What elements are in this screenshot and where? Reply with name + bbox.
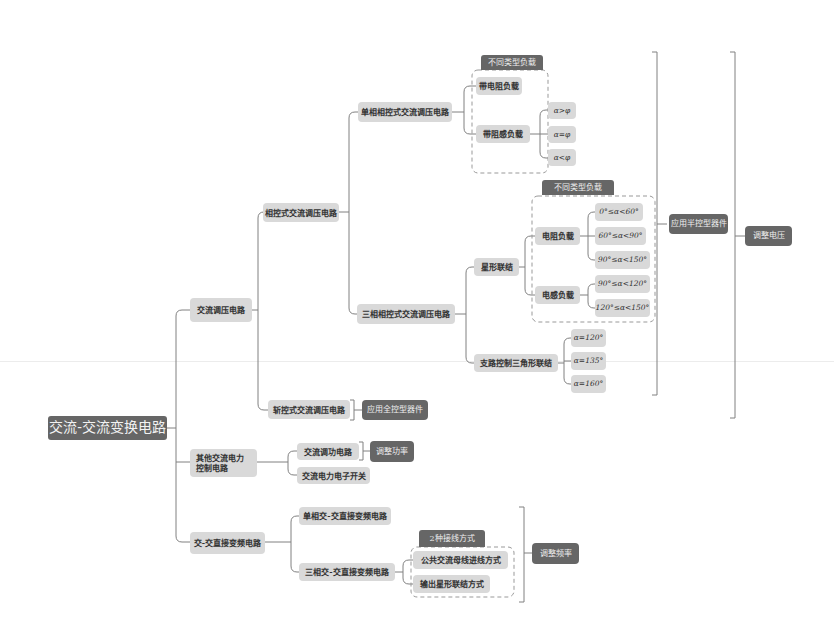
tag-adjust-power: 调整功率 [370, 441, 414, 462]
tag-load-types-three: 不同类型负载 [542, 180, 614, 195]
node-three-phase-phase-controlled[interactable]: 三相相控式交流调压电路 [357, 304, 455, 324]
node-phase-controlled[interactable]: 相控式交流调压电路 [263, 203, 339, 222]
node-other-ac-control[interactable]: 其他交流电力控制电路 [190, 449, 257, 477]
range-90-120[interactable]: 90°≤α<120° [595, 275, 650, 293]
tag-two-wiring-methods: 2种接线方式 [419, 530, 485, 547]
node-resistive-inductive-load[interactable]: 带阻感负载 [476, 125, 530, 143]
range-0-60[interactable]: 0°≤α<60° [595, 203, 643, 221]
tag-adjust-frequency: 调整频率 [532, 543, 579, 564]
range-90-150[interactable]: 90°≤α<150° [595, 251, 650, 269]
node-cycloconverter[interactable]: 交-交直接变频电路 [190, 532, 265, 554]
range-60-90[interactable]: 60°≤α<90° [595, 227, 646, 245]
angle-160[interactable]: α=160° [571, 375, 606, 393]
angle-120[interactable]: α=120° [571, 329, 606, 347]
node-output-star-wiring[interactable]: 输出星形联结方式 [413, 575, 490, 593]
root-node[interactable]: 交流-交流变换电路 [48, 416, 167, 440]
node-chopper-controlled[interactable]: 斩控式交流调压电路 [268, 400, 350, 419]
tag-full-controlled-device: 应用全控型器件 [362, 400, 428, 420]
case-alpha-equal-phi[interactable]: α=φ [548, 126, 576, 143]
node-ac-voltage-regulation[interactable]: 交流调压电路 [190, 298, 252, 322]
node-single-phase-phase-controlled[interactable]: 单相相控式交流调压电路 [358, 102, 452, 122]
node-resistive-load[interactable]: 带电阻负载 [476, 77, 522, 95]
node-ac-electronic-switch[interactable]: 交流电力电子开关 [297, 467, 370, 484]
angle-135[interactable]: α=135° [571, 352, 606, 370]
node-branch-controlled-delta[interactable]: 支路控制三角形联结 [474, 354, 558, 372]
case-alpha-greater-phi[interactable]: α>φ [548, 102, 576, 119]
node-common-bus-wiring[interactable]: 公共交流母线进线方式 [413, 551, 508, 569]
mind-map: 交流-交流变换电路 交流调压电路 其他交流电力控制电路 交-交直接变频电路 相控… [0, 0, 834, 644]
case-alpha-less-phi[interactable]: α<φ [548, 149, 576, 166]
node-inductive-load-three[interactable]: 电感负载 [535, 286, 580, 304]
tag-half-controlled-device: 应用半控型器件 [669, 214, 728, 234]
node-ac-power-control[interactable]: 交流调功电路 [297, 443, 359, 460]
node-single-phase-cyclo[interactable]: 单相交-交直接变频电路 [299, 507, 391, 525]
node-star-connection[interactable]: 星形联结 [474, 258, 519, 276]
tag-load-types-single: 不同类型负载 [481, 55, 543, 70]
node-three-phase-cyclo[interactable]: 三相交-交直接变频电路 [299, 563, 395, 581]
node-resistive-load-three[interactable]: 电阻负载 [535, 227, 580, 245]
tag-adjust-voltage: 调整电压 [745, 226, 792, 246]
range-120-150[interactable]: 120°≤α<150° [595, 299, 650, 317]
